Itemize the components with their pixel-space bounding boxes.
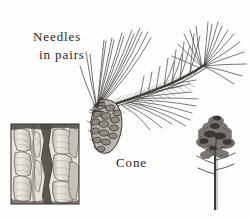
illustration-plate: Needles in pairs Cone <box>0 0 250 219</box>
tree-habit <box>196 116 235 210</box>
label-needles-line2: in pairs <box>39 48 85 61</box>
label-needles-line1: Needles <box>33 30 81 43</box>
label-cone: Cone <box>116 156 147 169</box>
